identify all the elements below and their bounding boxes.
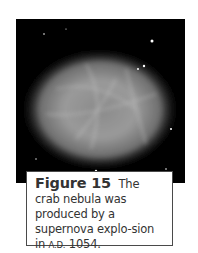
caption-year: 1054. (65, 237, 100, 251)
figure-label: Figure 15 (35, 175, 111, 191)
figure-caption: Figure 15 The crab nebula was produced b… (26, 171, 173, 246)
caption-era: A.D. (49, 240, 66, 250)
crab-nebula-photo (16, 19, 185, 183)
